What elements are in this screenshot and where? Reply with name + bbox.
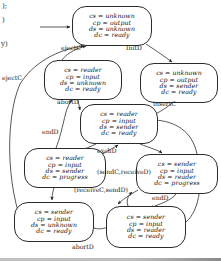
state-line-dc: dc = ready (128, 233, 163, 239)
state-line-dc: dc = ready (36, 228, 71, 234)
edge-label-insertc: insertC (153, 100, 176, 107)
edge-label-endd-left: endD (42, 128, 59, 135)
margin-note-1: ); (2, 2, 7, 10)
state-line-dc: dc = progress (154, 180, 199, 186)
edge-label-ejectc-left: ejectC (2, 74, 22, 81)
edge-s4-s6 (52, 188, 54, 200)
figure-canvas: cs = unknown cp = output ds = unknown dc… (0, 0, 221, 261)
edge-label-exchd: exchD (97, 147, 117, 154)
state-line-dc: dc = ready (65, 86, 100, 92)
edge-label-initd: InitD (126, 44, 142, 51)
edge-initd (146, 44, 172, 62)
edge-label-ejectc-top: ejectC (61, 44, 81, 51)
edge-endd-left (56, 100, 72, 148)
state-node-reader-input-sender-progress[interactable]: cs = reader cp = input ds = sender dc = … (24, 148, 106, 188)
state-line-dc: dc = progress (42, 174, 87, 180)
state-node-reader-input-sender-ready[interactable]: cs = reader cp = input ds = sender dc = … (80, 104, 158, 144)
margin-note-2: ) (2, 16, 5, 24)
state-node-unknown-output-unknown-ready[interactable]: cs = unknown cp = output ds = unknown dc… (72, 6, 152, 46)
state-line-dc: dc = ready (161, 89, 196, 95)
state-node-reader-input-unknown-ready[interactable]: cs = reader cp = input ds = unknown dc =… (44, 60, 122, 100)
state-node-unknown-output-sender-ready[interactable]: cs = unknown cp = output ds = sender dc … (140, 63, 218, 103)
margin-note-3: y) (1, 40, 8, 48)
state-line-dc: dc = ready (101, 130, 136, 136)
edge-label-sendc-received: (sendC,receiveD) (97, 168, 151, 175)
edge-label-endd-right: endD (152, 194, 169, 201)
state-node-sender-input-unknown-ready[interactable]: cs = sender cp = input ds = unknown dc =… (14, 202, 94, 242)
edge-label-abortd-bottom: abortD (72, 243, 94, 250)
edge-label-abortd-top: abortD (57, 98, 79, 105)
state-node-sender-input-reader-ready[interactable]: cs = sender cp = input ds = reader dc = … (106, 206, 186, 248)
state-line-dc: dc = ready (94, 32, 129, 38)
edge-label-receivec-sendd: (receiveC,sendD) (74, 186, 128, 193)
edge-sendc-received (140, 144, 162, 153)
